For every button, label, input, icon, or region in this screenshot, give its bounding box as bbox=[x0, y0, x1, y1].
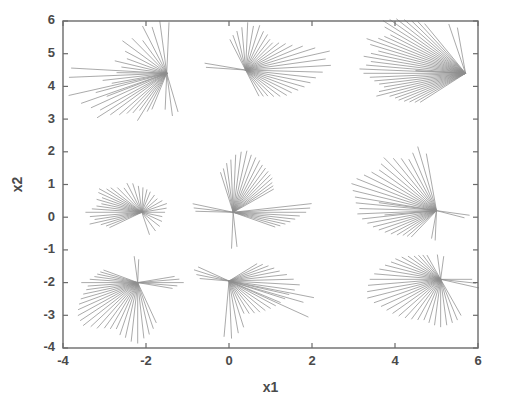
y-tick-labels: -4-3-2-10123456 bbox=[43, 12, 55, 354]
y-tick-label: 6 bbox=[48, 12, 55, 27]
plot-background bbox=[63, 21, 478, 348]
x-tick-label: 4 bbox=[391, 353, 399, 368]
x-tick-label: 2 bbox=[308, 353, 315, 368]
figure-canvas: -4-3-2-10123456 -4-20246 x1 x2 bbox=[0, 0, 505, 401]
x-tick-label: 6 bbox=[474, 353, 481, 368]
y-tick-label: -4 bbox=[43, 339, 55, 354]
y-tick-label: 5 bbox=[48, 45, 55, 60]
y-tick-label: 1 bbox=[48, 176, 55, 191]
y-tick-label: 2 bbox=[48, 143, 55, 158]
scatter-plot: -4-3-2-10123456 -4-20246 x1 x2 bbox=[0, 0, 505, 401]
x-axis-title: x1 bbox=[263, 379, 279, 395]
y-tick-label: -3 bbox=[43, 307, 55, 322]
y-tick-label: -1 bbox=[43, 241, 55, 256]
x-tick-labels: -4-20246 bbox=[57, 353, 481, 368]
y-axis-title: x2 bbox=[9, 177, 25, 193]
y-tick-label: 3 bbox=[48, 111, 55, 126]
x-tick-label: -2 bbox=[140, 353, 152, 368]
y-tick-label: 4 bbox=[48, 78, 56, 93]
x-tick-label: -4 bbox=[57, 353, 69, 368]
x-tick-label: 0 bbox=[225, 353, 232, 368]
y-tick-label: 0 bbox=[48, 209, 55, 224]
y-tick-label: -2 bbox=[43, 274, 55, 289]
